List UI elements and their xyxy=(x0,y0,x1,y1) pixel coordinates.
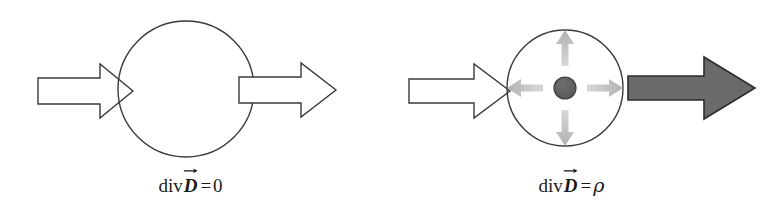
divergence-figure: divD =0 xyxy=(0,0,763,221)
incoming-flux-arrow xyxy=(409,64,510,118)
radial-arrow-up xyxy=(556,30,574,66)
caption-vector-symbol: D xyxy=(183,176,199,195)
panel-divergence-free: divD =0 xyxy=(0,0,381,221)
panel-left-graphic xyxy=(0,0,381,176)
incoming-flux-arrow xyxy=(38,64,133,118)
caption-right-hand-side: ρ xyxy=(593,174,604,196)
radial-arrow-down xyxy=(556,110,574,146)
point-charge xyxy=(554,77,576,99)
outgoing-flux-arrow xyxy=(239,63,336,117)
caption-divergence-free: divD =0 xyxy=(0,176,381,195)
caption-equals: = xyxy=(198,175,213,196)
caption-operator: div xyxy=(158,175,182,196)
radial-arrow-right xyxy=(587,79,623,97)
panel-right-graphic xyxy=(381,0,763,176)
caption-vector-symbol: D xyxy=(563,176,579,195)
radial-arrow-left xyxy=(507,79,543,97)
gaussian-surface-circle xyxy=(118,21,254,157)
caption-divergence-with-charge: divD =ρ xyxy=(381,176,762,195)
caption-equals: = xyxy=(579,175,594,196)
outgoing-flux-arrow xyxy=(628,57,755,119)
caption-right-hand-side: 0 xyxy=(213,175,223,196)
caption-operator: div xyxy=(539,175,563,196)
panel-divergence-with-charge: divD =ρ xyxy=(381,0,762,221)
